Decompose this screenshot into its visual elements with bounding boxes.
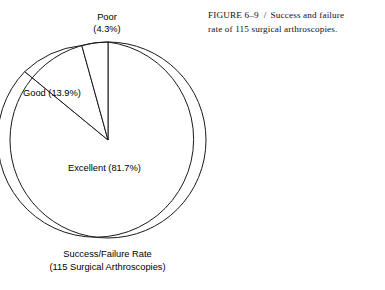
chart-title: Success/Failure Rate (115 Surgical Arthr… bbox=[0, 248, 215, 273]
figure-caption-text-1: Success and failure bbox=[270, 10, 344, 20]
figure-caption-line-1: FIGURE 6–9/Success and failure bbox=[208, 9, 383, 23]
slice-label-good: Good (13.9%) bbox=[23, 88, 81, 100]
chart-title-subtitle: (115 Surgical Arthroscopies) bbox=[0, 261, 215, 274]
slice-label-poor-name: Poor bbox=[77, 12, 137, 24]
pie-chart-svg bbox=[0, 0, 215, 250]
slice-label-excellent: Excellent (81.7%) bbox=[68, 163, 141, 175]
figure-caption: FIGURE 6–9/Success and failure rate of 1… bbox=[208, 9, 383, 36]
pie-chart: Poor (4.3%) Good (13.9%) Excellent (81.7… bbox=[0, 0, 215, 290]
figure-number: FIGURE 6–9 bbox=[208, 10, 259, 20]
figure-page: Poor (4.3%) Good (13.9%) Excellent (81.7… bbox=[0, 0, 385, 290]
slice-label-poor-value: (4.3%) bbox=[77, 24, 137, 36]
slice-label-poor: Poor (4.3%) bbox=[77, 12, 137, 35]
figure-caption-separator: / bbox=[259, 9, 271, 23]
chart-title-main: Success/Failure Rate bbox=[0, 248, 215, 261]
figure-caption-line-2: rate of 115 surgical arthroscopies. bbox=[208, 23, 383, 37]
